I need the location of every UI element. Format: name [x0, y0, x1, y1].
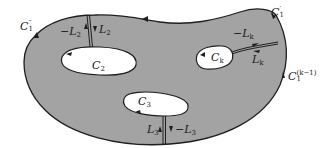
- label-l3: L3: [147, 124, 159, 137]
- label-l2: L2: [99, 24, 111, 37]
- label-c1-k-minus-1: C(k−1)1: [288, 70, 316, 82]
- label-c1-prime: C′1: [271, 6, 285, 18]
- label-ck: Ck: [211, 52, 224, 65]
- label-lk: Lk: [252, 54, 264, 67]
- label-c1-double-prime: C′′1: [20, 20, 34, 32]
- label-c3: C3: [138, 96, 151, 109]
- label-neg-l3: −L3: [175, 124, 196, 137]
- region-diagram: [0, 0, 322, 148]
- label-neg-lk: −Lk: [233, 28, 254, 41]
- label-neg-l2: −L2: [60, 26, 81, 39]
- label-c2: C2: [92, 60, 105, 73]
